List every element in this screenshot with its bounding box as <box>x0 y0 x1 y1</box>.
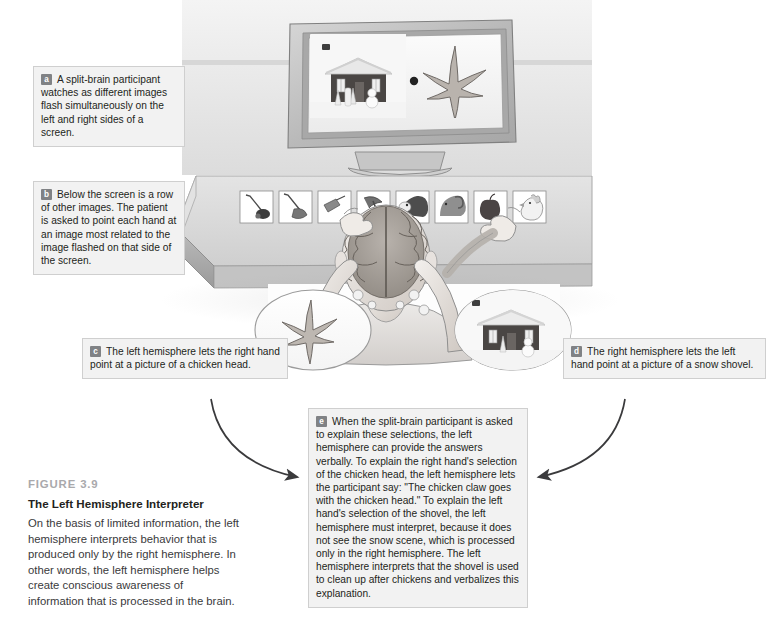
callout-a: a A split-brain participant watches as d… <box>33 66 185 147</box>
callout-c-text: The left hemisphere lets the right hand … <box>90 345 280 371</box>
callout-b-text: Below the screen is a row of other image… <box>41 188 177 267</box>
callout-b-badge: b <box>41 189 52 200</box>
card-lawn-mower <box>240 191 273 223</box>
callout-c: c The left hemisphere lets the right han… <box>82 338 288 379</box>
card-ram <box>435 191 468 223</box>
figure-title: The Left Hemisphere Interpreter <box>28 497 240 510</box>
screen-fixation-dot <box>410 77 418 85</box>
callout-e: e When the split-brain participant is as… <box>308 408 528 608</box>
card-snow-shovel <box>279 191 312 223</box>
callout-d-badge: d <box>571 346 582 357</box>
callout-d-text: The right hemisphere lets the left hand … <box>571 345 758 371</box>
callout-d: d The right hemisphere lets the left han… <box>563 338 766 379</box>
card-chicken-head <box>513 191 546 223</box>
callout-a-badge: a <box>41 74 52 85</box>
callout-c-badge: c <box>90 346 101 357</box>
callout-a-text: A split-brain participant watches as dif… <box>41 73 177 139</box>
figure-root: a A split-brain participant watches as d… <box>0 0 771 619</box>
snowman <box>366 89 378 108</box>
callout-e-badge: e <box>316 416 327 427</box>
callout-e-text: When the split-brain participant is aske… <box>316 415 520 600</box>
figure-caption: FIGURE 3.9 The Left Hemisphere Interpret… <box>28 478 240 610</box>
figure-caption-body: On the basis of limited information, the… <box>28 516 240 610</box>
callout-b: b Below the screen is a row of other ima… <box>33 181 185 275</box>
figure-number: FIGURE 3.9 <box>28 478 240 490</box>
